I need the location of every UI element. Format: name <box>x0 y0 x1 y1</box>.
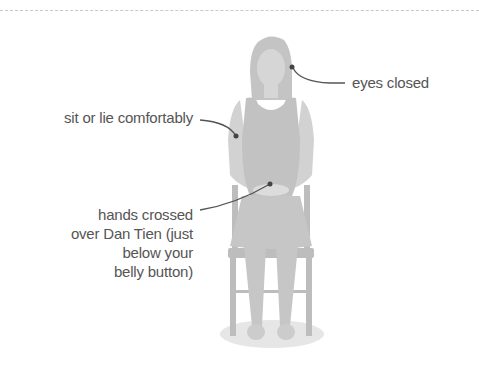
torso <box>242 98 300 196</box>
right-leg <box>276 246 298 326</box>
leader-hands-dot <box>268 182 273 187</box>
right-foot <box>277 324 295 340</box>
lap <box>230 196 312 249</box>
neck <box>264 84 278 98</box>
leader-eyes-dot <box>290 65 295 70</box>
meditation-figure-illustration <box>0 0 479 366</box>
label-eyes-closed: eyes closed <box>352 73 429 92</box>
left-foot <box>247 324 265 340</box>
face <box>257 49 285 87</box>
label-hands-crossed-dan-tien: hands crossed over Dan Tien (just below … <box>0 205 193 281</box>
left-leg <box>244 246 266 326</box>
leader-posture-dot <box>234 134 239 139</box>
leader-eyes <box>293 68 345 83</box>
label-sit-or-lie-comfortably: sit or lie comfortably <box>0 108 193 127</box>
